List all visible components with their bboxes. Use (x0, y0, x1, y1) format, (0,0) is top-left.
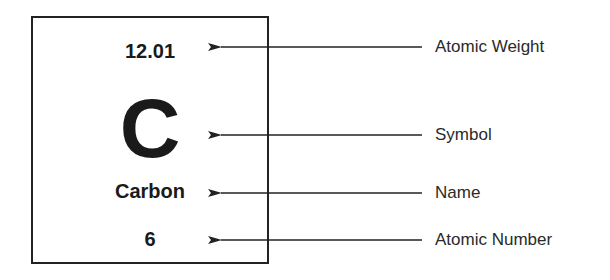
label-symbol: Symbol (435, 125, 492, 145)
label-name: Name (435, 183, 480, 203)
label-atomic-weight: Atomic Weight (435, 37, 544, 57)
label-atomic-number: Atomic Number (435, 230, 552, 250)
